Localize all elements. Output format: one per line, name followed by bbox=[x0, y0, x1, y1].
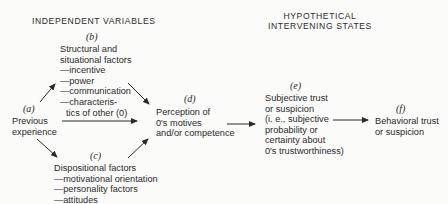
arrow-b-to-d bbox=[128, 83, 149, 104]
arrow-a-to-c bbox=[37, 139, 57, 157]
diagram-arrows bbox=[0, 0, 448, 204]
arrow-a-to-b bbox=[40, 84, 55, 102]
arrow-c-to-d bbox=[128, 139, 148, 158]
